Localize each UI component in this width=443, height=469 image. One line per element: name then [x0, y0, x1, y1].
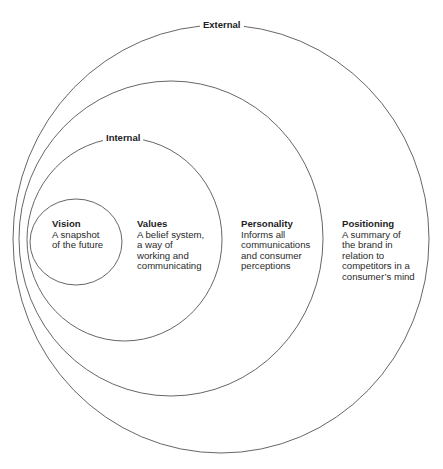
external-label: External	[200, 19, 244, 30]
values-text-line: communicating	[137, 261, 204, 272]
positioning-text-line: consumer’s mind	[342, 272, 415, 283]
vision-block: Vision A snapshot of the future	[52, 219, 103, 251]
values-block: Values A belief system, a way of working…	[137, 219, 204, 272]
vision-title: Vision	[52, 219, 103, 230]
positioning-title: Positioning	[342, 219, 415, 230]
internal-label: Internal	[103, 132, 143, 143]
values-title: Values	[137, 219, 204, 230]
positioning-block: Positioning A summary of the brand in re…	[342, 219, 415, 283]
personality-title: Personality	[241, 219, 310, 230]
personality-block: Personality Informs all communications a…	[241, 219, 310, 272]
personality-text-line: perceptions	[241, 261, 310, 272]
vision-text-line: of the future	[52, 240, 103, 251]
